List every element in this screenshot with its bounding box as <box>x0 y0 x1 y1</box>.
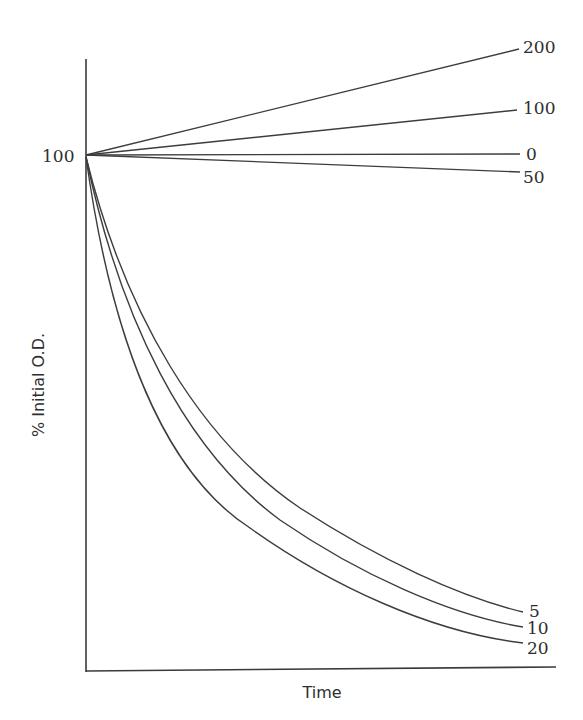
y-tick-label-100: 100 <box>42 146 74 166</box>
series-line-50 <box>86 155 520 172</box>
line-chart: 100 200 100 0 50 5 10 20 Time % Initial … <box>0 0 583 720</box>
series-line-0 <box>86 154 520 155</box>
series-curve-10 <box>86 157 523 627</box>
series-line-200 <box>86 49 519 155</box>
series-label-10: 10 <box>527 618 549 638</box>
series-label-0: 0 <box>526 144 537 164</box>
series-label-20: 20 <box>527 638 549 658</box>
series-line-100 <box>86 110 517 155</box>
x-axis <box>86 667 556 671</box>
series-label-100: 100 <box>523 98 555 118</box>
y-axis-label: % Initial O.D. <box>29 333 48 437</box>
series-label-50: 50 <box>523 167 545 187</box>
x-axis-label: Time <box>301 683 341 702</box>
series-curve-20 <box>86 157 523 643</box>
series-curve-5 <box>86 157 523 612</box>
series-label-200: 200 <box>523 37 555 57</box>
